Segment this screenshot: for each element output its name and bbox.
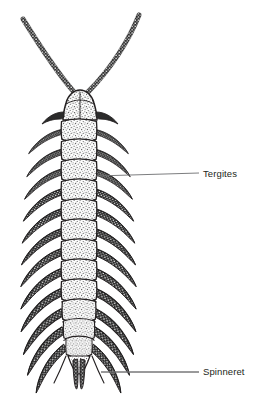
figure-background [0, 0, 256, 399]
tergites-group [61, 119, 97, 358]
tergite-12 [66, 336, 92, 357]
label-spinneret: Spinneret [203, 366, 245, 377]
label-tergites: Tergites [203, 168, 237, 179]
symphylan-illustration [0, 0, 256, 399]
